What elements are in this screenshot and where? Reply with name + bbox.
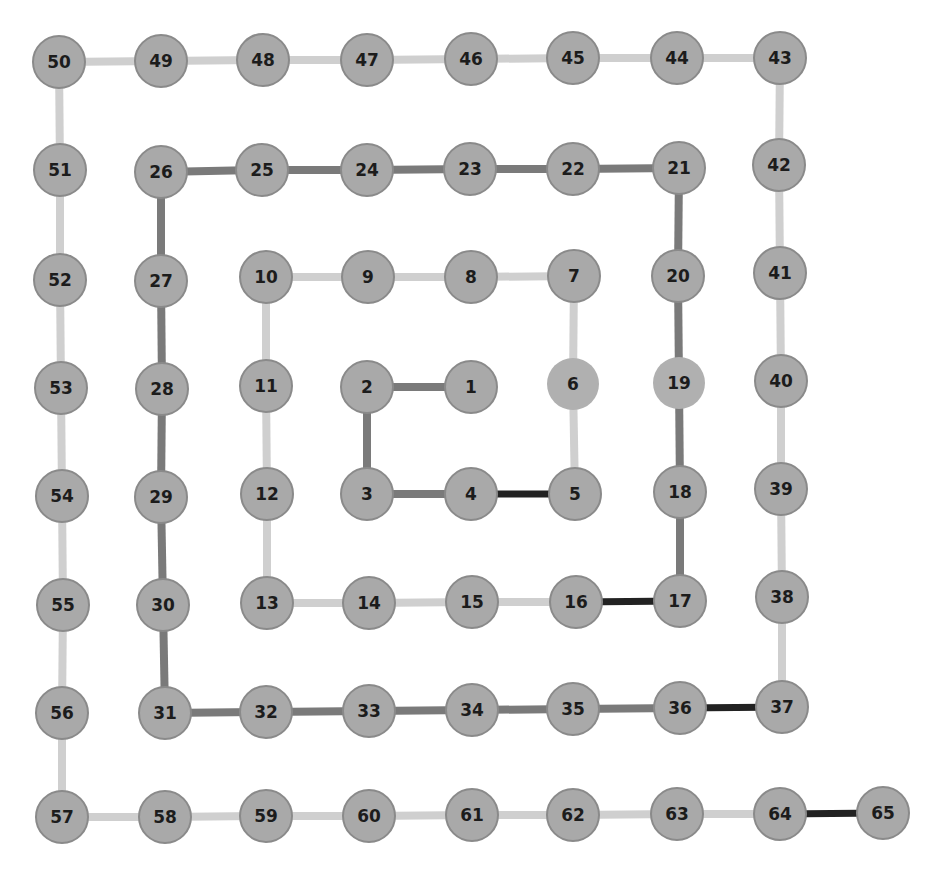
node-label: 65: [871, 803, 895, 823]
node-label: 40: [769, 371, 793, 391]
node-label: 61: [460, 805, 484, 825]
node-4: 4: [445, 468, 497, 520]
node-64: 64: [754, 788, 806, 840]
node-label: 55: [51, 595, 75, 615]
node-8: 8: [445, 251, 497, 303]
node-label: 11: [254, 376, 278, 396]
node-label: 6: [567, 374, 579, 394]
node-label: 3: [361, 484, 373, 504]
node-label: 31: [153, 703, 177, 723]
node-21: 21: [653, 142, 705, 194]
node-label: 47: [355, 50, 379, 70]
node-61: 61: [446, 789, 498, 841]
node-28: 28: [136, 363, 188, 415]
node-40: 40: [755, 355, 807, 407]
node-label: 44: [665, 48, 689, 68]
node-1: 1: [445, 361, 497, 413]
node-label: 57: [50, 807, 74, 827]
node-56: 56: [36, 687, 88, 739]
node-label: 43: [768, 48, 792, 68]
node-58: 58: [139, 791, 191, 843]
node-label: 56: [50, 703, 74, 723]
node-label: 18: [668, 482, 692, 502]
node-label: 9: [362, 267, 374, 287]
node-30: 30: [137, 579, 189, 631]
node-25: 25: [236, 144, 288, 196]
node-22: 22: [547, 143, 599, 195]
node-label: 63: [665, 804, 689, 824]
node-38: 38: [756, 571, 808, 623]
node-label: 54: [50, 486, 74, 506]
node-24: 24: [341, 144, 393, 196]
node-label: 17: [668, 591, 692, 611]
node-label: 1: [465, 377, 477, 397]
node-16: 16: [550, 576, 602, 628]
node-31: 31: [139, 687, 191, 739]
node-label: 39: [769, 479, 793, 499]
node-label: 4: [465, 484, 477, 504]
node-20: 20: [652, 250, 704, 302]
node-54: 54: [36, 470, 88, 522]
node-13: 13: [241, 577, 293, 629]
node-label: 23: [458, 159, 482, 179]
node-label: 28: [150, 379, 174, 399]
node-36: 36: [654, 682, 706, 734]
node-55: 55: [37, 579, 89, 631]
node-45: 45: [547, 32, 599, 84]
node-label: 64: [768, 804, 792, 824]
node-label: 34: [460, 700, 484, 720]
node-19: 19: [653, 357, 705, 409]
node-52: 52: [34, 254, 86, 306]
node-label: 13: [255, 593, 279, 613]
node-label: 2: [361, 377, 373, 397]
node-50: 50: [33, 36, 85, 88]
node-47: 47: [341, 34, 393, 86]
node-5: 5: [549, 468, 601, 520]
node-9: 9: [342, 251, 394, 303]
node-label: 38: [770, 587, 794, 607]
node-label: 14: [357, 593, 381, 613]
node-label: 16: [564, 592, 588, 612]
node-label: 8: [465, 267, 477, 287]
node-label: 37: [770, 697, 794, 717]
node-label: 10: [254, 267, 278, 287]
node-label: 15: [460, 592, 484, 612]
node-label: 49: [149, 51, 173, 71]
node-label: 59: [254, 806, 278, 826]
node-label: 21: [667, 158, 691, 178]
node-6: 6: [547, 358, 599, 410]
node-49: 49: [135, 35, 187, 87]
node-label: 53: [49, 378, 73, 398]
node-label: 7: [568, 266, 580, 286]
node-label: 32: [254, 702, 278, 722]
node-2: 2: [341, 361, 393, 413]
node-label: 33: [357, 701, 381, 721]
node-label: 48: [251, 50, 275, 70]
node-44: 44: [651, 32, 703, 84]
node-60: 60: [343, 790, 395, 842]
node-29: 29: [135, 471, 187, 523]
node-label: 41: [768, 263, 792, 283]
spiral-graph-diagram: 1234567891011121314151617181920212223242…: [0, 0, 943, 883]
node-32: 32: [240, 686, 292, 738]
node-34: 34: [446, 684, 498, 736]
node-3: 3: [341, 468, 393, 520]
node-label: 52: [48, 270, 72, 290]
node-35: 35: [547, 683, 599, 735]
node-label: 19: [667, 373, 691, 393]
node-label: 51: [48, 160, 72, 180]
node-label: 20: [666, 266, 690, 286]
node-label: 58: [153, 807, 177, 827]
node-label: 29: [149, 487, 173, 507]
diagram-background: [0, 0, 943, 883]
node-label: 50: [47, 52, 71, 72]
node-10: 10: [240, 251, 292, 303]
node-53: 53: [35, 362, 87, 414]
node-12: 12: [241, 468, 293, 520]
node-label: 60: [357, 806, 381, 826]
node-41: 41: [754, 247, 806, 299]
node-label: 26: [149, 162, 173, 182]
node-label: 46: [459, 49, 483, 69]
node-label: 36: [668, 698, 692, 718]
node-15: 15: [446, 576, 498, 628]
